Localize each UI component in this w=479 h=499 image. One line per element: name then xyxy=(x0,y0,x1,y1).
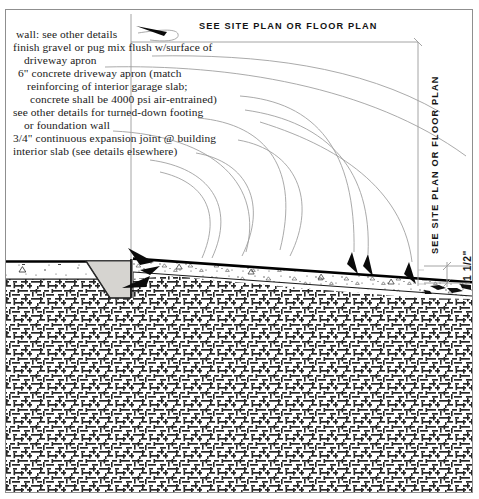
header-label-right: SEE SITE PLAN OR FLOOR PLAN xyxy=(430,75,440,254)
detail-drawing-sheet: SEE SITE PLAN OR FLOOR PLAN SEE SITE PLA… xyxy=(0,0,479,499)
note-concrete-apron: 6" concrete driveway apron (match xyxy=(18,67,182,80)
note-foundation-wall: or foundation wall xyxy=(24,119,110,132)
note-concrete-psi: concrete shall be 4000 psi air-entrained… xyxy=(30,93,217,106)
note-expansion-joint: 3/4" continuous expansion joint @ buildi… xyxy=(13,132,216,145)
dimension-label-thickness: 1 1/2" xyxy=(462,250,473,281)
note-driveway-apron-cont: driveway apron xyxy=(24,54,97,67)
header-label-top: SEE SITE PLAN OR FLOOR PLAN xyxy=(199,21,378,31)
note-wall: wall: see other details xyxy=(16,28,117,41)
note-interior-slab: interior slab (see details elsewhere) xyxy=(13,145,177,158)
earth-fill xyxy=(6,276,472,492)
note-finish-gravel: finish gravel or pug mix flush w/surface… xyxy=(13,41,212,54)
note-reinforcing: reinforcing of interior garage slab; xyxy=(27,80,187,93)
note-turned-down-footing: see other details for turned-down footin… xyxy=(13,106,203,119)
